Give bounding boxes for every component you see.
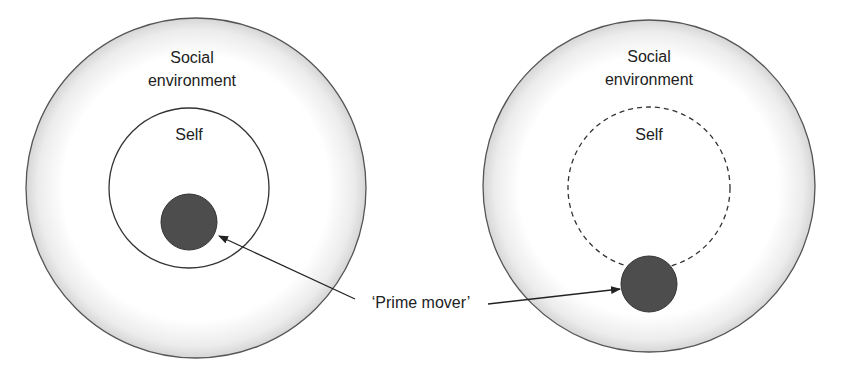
left-diagram: Social environment Self [26, 18, 366, 358]
left-self-label: Self [175, 126, 203, 143]
left-social-label-line2: environment [148, 72, 237, 89]
right-diagram: Social environment Self [483, 20, 815, 352]
left-prime-mover-dot [161, 194, 217, 250]
right-social-label-line2: environment [605, 71, 694, 88]
right-social-label-line1: Social [627, 48, 671, 65]
left-social-label-line1: Social [170, 49, 214, 66]
right-self-label: Self [635, 126, 663, 143]
prime-mover-label: ‘Prime mover’ [372, 294, 470, 311]
right-prime-mover-dot [621, 256, 677, 312]
diagram-canvas: Social environment Self Social environme… [0, 0, 842, 371]
